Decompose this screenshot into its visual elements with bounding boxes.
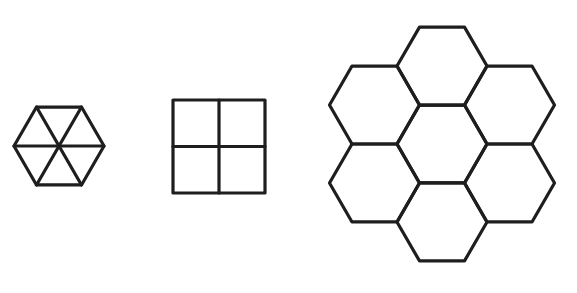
diagram-canvas (0, 0, 577, 293)
center-hexagon (397, 105, 487, 183)
outer-hexagon (397, 183, 487, 261)
outer-hexagon (330, 66, 420, 144)
hexagon-of-triangles (14, 107, 104, 185)
outer-hexagon (465, 144, 555, 222)
outer-hexagon (397, 27, 487, 105)
square-of-squares (173, 100, 265, 193)
outer-hexagon (330, 144, 420, 222)
hexagon-cluster (330, 27, 555, 261)
outer-hexagon (465, 66, 555, 144)
